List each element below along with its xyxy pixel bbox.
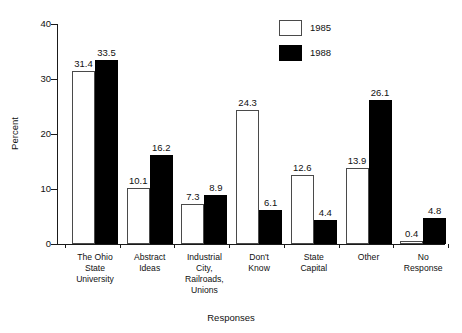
value-label: 7.3: [173, 192, 212, 202]
x-tick: [65, 244, 66, 248]
category-label-line: Unions: [172, 285, 236, 296]
black-square-icon: [279, 45, 302, 61]
category-label: NoResponse: [391, 252, 455, 274]
y-tick: [51, 244, 57, 245]
category-label-line: No: [391, 252, 455, 263]
value-label: 0.4: [392, 229, 431, 239]
bar-1988-3: [259, 210, 282, 244]
value-label: 6.1: [251, 198, 290, 208]
bar-1988-4: [314, 220, 337, 244]
legend-label: 1985: [310, 23, 331, 33]
bar-1985-1: [127, 188, 150, 244]
x-tick: [448, 244, 449, 248]
y-tick-label: 30: [27, 74, 51, 84]
white-square-icon: [279, 20, 302, 36]
category-label-line: Railroads,: [172, 274, 236, 285]
value-label: 33.5: [87, 48, 126, 58]
x-tick: [120, 244, 121, 248]
y-tick-label: 40: [27, 19, 51, 29]
value-label: 4.4: [306, 208, 345, 218]
bar-1988-2: [204, 195, 227, 244]
category-label-line: University: [63, 274, 127, 285]
value-label: 4.8: [415, 206, 454, 216]
value-label: 13.9: [338, 156, 377, 166]
y-tick: [51, 189, 57, 190]
bar-1985-2: [181, 204, 204, 244]
y-tick: [51, 24, 57, 25]
x-tick: [339, 244, 340, 248]
value-label: 12.6: [283, 163, 322, 173]
bar-1985-0: [72, 71, 95, 244]
x-axis-title: Responses: [0, 312, 462, 323]
bar-1985-5: [346, 168, 369, 244]
bar-1985-3: [236, 110, 259, 244]
y-tick: [51, 79, 57, 80]
y-tick: [51, 134, 57, 135]
y-axis-line: [57, 24, 58, 245]
value-label: 10.1: [119, 176, 158, 186]
x-tick: [229, 244, 230, 248]
value-label: 24.3: [228, 98, 267, 108]
value-label: 8.9: [196, 183, 235, 193]
x-tick: [174, 244, 175, 248]
bar-1988-5: [369, 100, 392, 244]
x-tick: [393, 244, 394, 248]
y-tick-label: 10: [27, 184, 51, 194]
category-label-line: Response: [391, 263, 455, 274]
bar-chart: 010203040 Percent Responses 31.433.510.1…: [0, 0, 462, 333]
legend-label: 1988: [310, 48, 331, 58]
bar-1985-6: [400, 241, 423, 244]
bar-1988-0: [95, 60, 118, 244]
x-tick: [284, 244, 285, 248]
bar-1988-1: [150, 155, 173, 244]
y-axis-title: Percent: [9, 104, 20, 164]
value-label: 16.2: [142, 143, 181, 153]
y-tick-label: 20: [27, 129, 51, 139]
value-label: 31.4: [64, 59, 103, 69]
y-tick-label: 0: [27, 239, 51, 249]
value-label: 26.1: [361, 88, 400, 98]
category-label-line: Capital: [282, 263, 346, 274]
x-axis-line: [57, 244, 445, 245]
